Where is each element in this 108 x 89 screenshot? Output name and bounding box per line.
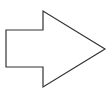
arrow-diagram — [0, 0, 108, 89]
right-arrow-icon — [6, 11, 105, 87]
